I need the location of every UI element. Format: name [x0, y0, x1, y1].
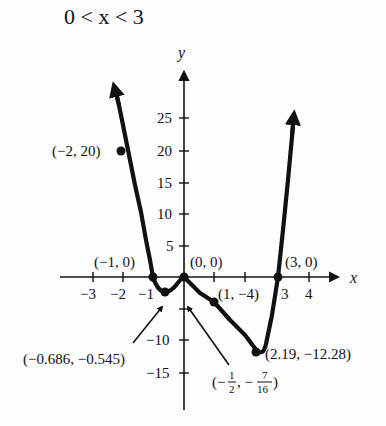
function-graph: x y −3 −2 −1 3 4 25 20 15 10 5 −10 −15 [0, 0, 386, 426]
y-tick-label: 5 [166, 238, 174, 254]
svg-text:, −: , − [237, 374, 253, 390]
x-tick-label: −2 [110, 286, 126, 302]
pointer-arrow [188, 307, 229, 365]
y-tick-label: −15 [146, 365, 169, 381]
data-points [117, 147, 283, 357]
left-arrow [114, 86, 119, 105]
point-label: (2.19, −12.28) [265, 346, 351, 363]
x-tick-label: 4 [305, 286, 313, 302]
point-label: (−0.686, −0.545) [23, 351, 125, 368]
point-label-fraction: (− 1 2 , − 7 16 ) [212, 369, 278, 395]
x-axis-label: x [349, 269, 357, 286]
point-label: (−1, 0) [94, 254, 135, 271]
x-tick-label: −3 [80, 286, 96, 302]
svg-text:2: 2 [229, 383, 235, 395]
svg-text:7: 7 [262, 369, 268, 381]
y-tick-label: 25 [157, 110, 172, 126]
y-tick-label: 10 [157, 206, 172, 222]
svg-text:(−: (− [212, 374, 225, 391]
y-axis-label: y [176, 44, 186, 62]
svg-text:): ) [273, 374, 278, 391]
function-curve [117, 96, 293, 352]
right-arrow [292, 114, 294, 135]
x-tick-label: 3 [281, 286, 289, 302]
y-tick-label: 15 [157, 175, 172, 191]
x-tick-label: −1 [138, 286, 154, 302]
svg-text:1: 1 [229, 369, 235, 381]
y-tick-label: 20 [157, 143, 172, 159]
point-label: (3, 0) [285, 254, 318, 271]
point-label: (0, 0) [190, 254, 223, 271]
point-label: (−2, 20) [52, 143, 100, 160]
point-label: (1, −4) [218, 286, 259, 303]
y-tick-label: −10 [146, 332, 169, 348]
svg-text:16: 16 [257, 383, 269, 395]
